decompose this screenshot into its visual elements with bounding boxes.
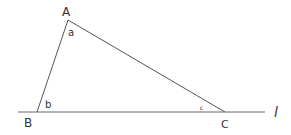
triangle-diagram: A B C a b c l: [0, 0, 291, 135]
side-ac: [68, 20, 225, 112]
vertex-label-a: A: [62, 5, 71, 19]
angle-label-b: b: [45, 99, 51, 110]
angle-label-a: a: [68, 27, 74, 38]
side-ab: [37, 20, 68, 112]
vertex-label-b: B: [24, 116, 32, 130]
line-label-l: l: [274, 104, 278, 120]
angle-label-c: c: [200, 104, 203, 111]
vertex-label-c: C: [221, 118, 229, 131]
diagram-canvas: A B C a b c l: [0, 0, 291, 135]
